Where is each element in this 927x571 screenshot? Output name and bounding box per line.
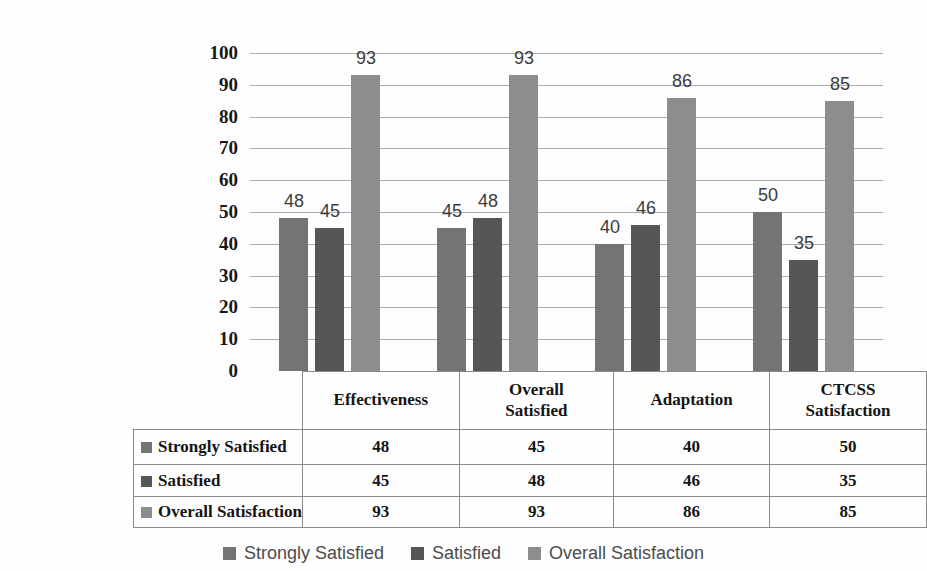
bar [351,75,380,371]
table-corner-cell [134,372,303,430]
y-axis-tick-label: 60 [182,169,238,191]
data-table: EffectivenessOverall SatisfiedAdaptation… [133,371,927,528]
y-axis-tick-label: 90 [182,74,238,96]
gridline [250,85,883,86]
bar [315,228,344,371]
bar [631,225,660,371]
bar [509,75,538,371]
y-axis-tick-label: 100 [182,42,238,64]
y-axis-tick-label: 30 [182,265,238,287]
series-marker-icon [141,507,152,518]
bar [667,98,696,371]
legend-swatch-icon [223,547,236,560]
y-axis-tick-label: 70 [182,137,238,159]
table-row: Satisfied45484635 [134,465,927,497]
table-value-cell: 45 [459,430,614,465]
table-row: Strongly Satisfied48454050 [134,430,927,465]
legend-item: Satisfied [411,543,501,564]
table-value-cell: 93 [459,497,614,528]
table-row: Overall Satisfaction93938685 [134,497,927,528]
bar-data-label: 48 [464,191,512,211]
bar [473,218,502,371]
bar-data-label: 46 [622,198,670,218]
bar [595,244,624,371]
y-axis-tick-label: 40 [182,233,238,255]
legend-label: Satisfied [432,543,501,564]
legend-label: Overall Satisfaction [549,543,704,564]
table-value-cell: 46 [614,465,770,497]
bar-data-label: 93 [342,48,390,68]
table-value-cell: 45 [303,465,460,497]
table-value-cell: 35 [770,465,927,497]
gridline [250,117,883,118]
legend: Strongly SatisfiedSatisfiedOverall Satis… [0,543,927,564]
bar-data-label: 40 [586,217,634,237]
table-category-header: Adaptation [614,372,770,430]
table-value-cell: 48 [459,465,614,497]
bar-data-label: 85 [816,74,864,94]
bar-data-label: 45 [306,201,354,221]
series-marker-icon [141,442,152,453]
chart-figure: 0102030405060708090100484593454893404686… [0,0,927,571]
y-axis-tick-label: 80 [182,106,238,128]
bar [789,260,818,371]
legend-swatch-icon [528,547,541,560]
bar-data-label: 93 [500,48,548,68]
table-value-cell: 50 [770,430,927,465]
table-category-header: CTCSS Satisfaction [770,372,927,430]
legend-swatch-icon [411,547,424,560]
y-axis-tick-label: 10 [182,328,238,350]
table-value-cell: 85 [770,497,927,528]
series-marker-icon [141,476,152,487]
legend-item: Overall Satisfaction [528,543,704,564]
bar-data-label: 50 [744,185,792,205]
bar [825,101,854,371]
legend-label: Strongly Satisfied [244,543,384,564]
table-value-cell: 86 [614,497,770,528]
table-row-label: Overall Satisfaction [134,497,303,528]
table-category-header: Effectiveness [303,372,460,430]
table-value-cell: 48 [303,430,460,465]
bar-data-label: 86 [658,71,706,91]
gridline [250,148,883,149]
bar-data-label: 35 [780,233,828,253]
table-row-label: Strongly Satisfied [134,430,303,465]
table-category-header: Overall Satisfied [459,372,614,430]
table-row-label: Satisfied [134,465,303,497]
bar [279,218,308,371]
gridline [250,180,883,181]
legend-item: Strongly Satisfied [223,543,384,564]
plot-area: 0102030405060708090100484593454893404686… [250,53,883,371]
bar [753,212,782,371]
table-value-cell: 40 [614,430,770,465]
y-axis-tick-label: 50 [182,201,238,223]
bar [437,228,466,371]
y-axis-tick-label: 20 [182,296,238,318]
table-value-cell: 93 [303,497,460,528]
